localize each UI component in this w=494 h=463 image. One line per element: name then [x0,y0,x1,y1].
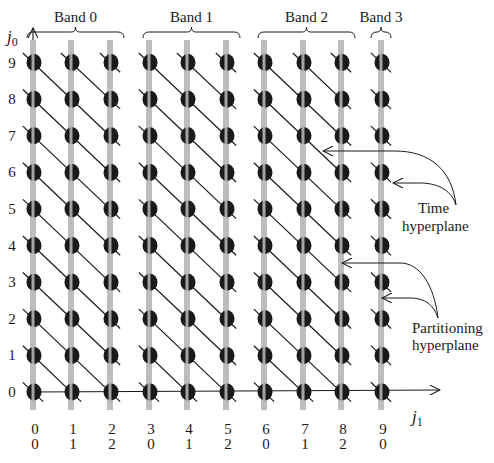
col-label-bottom-5: 2 [224,436,232,452]
col-label-top-0: 0 [31,421,39,437]
partitioning-hyperplane-label-line2: hyperplane [412,337,479,353]
iteration-point-stripes [32,40,383,410]
partitioning-hyperplane-callout: Partitioning hyperplane [342,263,483,353]
partitioning-hyperplanes [30,40,384,410]
iteration-points [27,54,390,400]
diagram-canvas: Band 0Band 1Band 2Band 3 j0 j1 012345678… [0,0,494,463]
row-label-6: 6 [8,164,16,180]
partition-line-overlay-5 [225,40,228,410]
partitioning-hyperplane-label-line1: Partitioning [412,320,483,336]
col-label-bottom-6: 0 [262,436,270,452]
band-label-2: Band 2 [285,9,328,25]
row-label-5: 5 [8,201,16,217]
col-label-top-7: 7 [301,421,309,437]
band-label-0: Band 0 [54,9,97,25]
partition-line-overlay-0 [32,40,35,410]
row-labels: 0123456789 [8,55,16,400]
band-label-3: Band 3 [360,9,403,25]
col-label-top-1: 1 [69,421,77,437]
partition-line-overlay-1 [70,40,73,410]
time-hyperplane-label-line1: Time [418,200,449,216]
col-label-top-6: 6 [262,421,270,437]
partition-line-overlay-6 [263,40,266,410]
col-label-bottom-3: 0 [147,436,155,452]
band-brace-3 [371,27,391,38]
time-hyperplanes [23,53,391,402]
col-label-top-2: 2 [108,421,116,437]
partition-line-overlay-3 [148,40,151,410]
band-brace-1 [143,27,240,38]
j0-axis-label: j0 [5,27,18,49]
col-label-bottom-9: 0 [379,436,387,452]
col-label-top-3: 3 [147,421,155,437]
partition-arrow-2 [382,298,438,318]
partition-line-overlay-4 [186,40,189,410]
row-label-9: 9 [8,55,16,71]
time-hyperplane-label-line2: hyperplane [402,218,469,234]
partition-line-overlay-7 [302,40,305,410]
partition-line-overlay-8 [340,40,343,410]
j1-axis-label: j1 [410,407,423,429]
row-label-1: 1 [8,347,16,363]
row-label-4: 4 [8,238,16,254]
col-label-bottom-7: 1 [301,436,309,452]
col-label-bottom-1: 1 [69,436,77,452]
column-labels: 00112230415260718290 [31,421,387,452]
col-label-bottom-4: 1 [185,436,193,452]
row-label-0: 0 [8,384,16,400]
row-label-7: 7 [8,128,16,144]
partition-line-overlay-2 [109,40,112,410]
row-label-8: 8 [8,91,16,107]
band-brace-0 [27,27,124,38]
col-label-bottom-2: 2 [108,436,116,452]
col-label-bottom-8: 2 [339,436,347,452]
col-label-top-8: 8 [339,421,347,437]
partition-line-overlay-9 [380,40,383,410]
row-label-3: 3 [8,274,16,290]
col-label-top-4: 4 [185,421,193,437]
col-label-bottom-0: 0 [31,436,39,452]
band-braces: Band 0Band 1Band 2Band 3 [27,9,402,38]
time-hyperplane-callout: Time hyperplane [323,151,469,234]
col-label-top-5: 5 [224,421,232,437]
band-label-1: Band 1 [170,9,213,25]
band-brace-2 [258,27,355,38]
row-label-2: 2 [8,311,16,327]
iteration-space-diagram: Band 0Band 1Band 2Band 3 j0 j1 012345678… [0,0,494,463]
col-label-top-9: 9 [379,421,387,437]
